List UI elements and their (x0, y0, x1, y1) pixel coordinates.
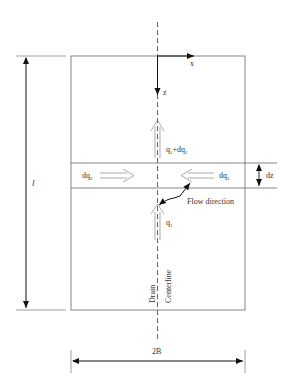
flow-direction-leader (159, 183, 190, 205)
lateral-arrow-right-icon (181, 169, 214, 182)
lateral-left-label: dq2 (82, 171, 93, 181)
centerline-label: Centerline (164, 269, 173, 303)
dz-label: dz (266, 171, 274, 180)
drain-label: Drain (148, 285, 157, 303)
lateral-arrow-left-icon (100, 169, 134, 182)
flow-lower-label: q1 (166, 218, 173, 228)
length-label: l (32, 178, 35, 188)
element-band (71, 163, 277, 188)
axis-x-label: x (190, 59, 194, 68)
coordinate-axes: x z (158, 56, 195, 97)
flow-upper-label: q1+dq1 (166, 145, 188, 155)
drain-diagram: x z q1+dq1 dq2 dq2 dz Flow direction (0, 0, 288, 392)
lateral-right-label: dq2 (219, 171, 230, 181)
length-dimension (16, 56, 66, 310)
flow-direction-label: Flow direction (187, 197, 234, 206)
width-label: 2B (152, 347, 161, 356)
axis-z-label: z (163, 88, 167, 97)
